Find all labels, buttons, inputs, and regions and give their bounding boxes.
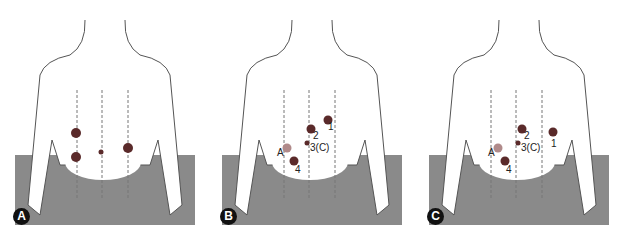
panel-badge: A bbox=[13, 208, 30, 225]
torso-illustration bbox=[0, 0, 207, 237]
torso-illustration bbox=[414, 0, 621, 237]
port-label-2: 2 bbox=[524, 131, 530, 141]
panel-badge: B bbox=[220, 208, 237, 225]
panel-a: A bbox=[0, 0, 207, 237]
port-label-4: 4 bbox=[506, 165, 512, 175]
port-label-3c: 3(C) bbox=[310, 143, 329, 153]
port-label-3c: 3(C) bbox=[521, 143, 540, 153]
port-label-4: 4 bbox=[295, 165, 301, 175]
port-label-2: 2 bbox=[313, 131, 319, 141]
panel-b: 1 2 3(C) A 4 B bbox=[207, 0, 414, 237]
port-label-a: A bbox=[488, 148, 495, 158]
panel-badge: C bbox=[427, 208, 444, 225]
panel-c: 2 1 3(C) A 4 C bbox=[414, 0, 621, 237]
port-label-1: 1 bbox=[328, 122, 334, 132]
port-label-1: 1 bbox=[551, 139, 557, 149]
port-label-a: A bbox=[277, 148, 284, 158]
torso-illustration bbox=[207, 0, 414, 237]
